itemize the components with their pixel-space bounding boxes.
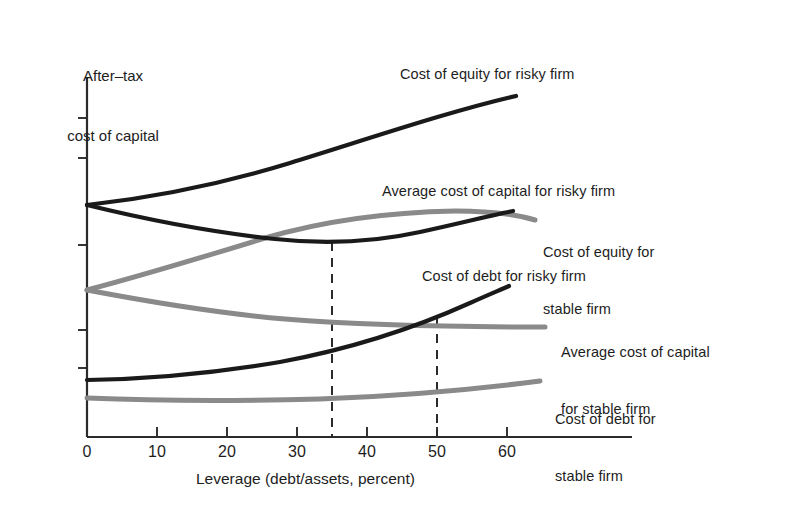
x-tick-label-30: 30 (277, 443, 317, 461)
x-tick-label-20: 20 (207, 443, 247, 461)
annotation-average-cost-of-capital-risky-firm: Average cost of capital for risky firm (382, 182, 615, 201)
y-axis-title-line1: After–tax (38, 66, 188, 86)
x-tick-label-10: 10 (137, 443, 177, 461)
annotation-average-cost-of-capital-stable-firm-line1: Average cost of capital (561, 343, 710, 362)
y-axis-title-line2: cost of capital (38, 126, 188, 146)
x-axis-title: Leverage (debt/assets, percent) (196, 470, 415, 488)
annotation-cost-of-debt-stable-firm-line1: Cost of debt for (555, 410, 656, 429)
annotation-cost-of-debt-stable-firm-line2: stable firm (555, 467, 656, 486)
annotation-cost-of-equity-risky-firm: Cost of equity for risky firm (400, 65, 575, 84)
chart-figure: After–tax cost of capital Leverage (debt… (0, 0, 787, 512)
y-axis-title: After–tax cost of capital (38, 26, 188, 186)
annotation-cost-of-debt-risky-firm: Cost of debt for risky firm (422, 267, 586, 286)
annotation-cost-of-debt-stable-firm: Cost of debt for stable firm (555, 372, 656, 512)
annotation-cost-of-equity-stable-firm-line1: Cost of equity for (543, 243, 654, 262)
series-group-stable (87, 211, 545, 400)
series-cost-of-debt-stable-firm (87, 381, 540, 400)
x-tick-label-40: 40 (347, 443, 387, 461)
x-tick-label-0: 0 (67, 443, 107, 461)
series-average-cost-of-capital-stable-firm (87, 290, 545, 327)
x-tick-label-50: 50 (417, 443, 457, 461)
x-tick-label-60: 60 (487, 443, 527, 461)
